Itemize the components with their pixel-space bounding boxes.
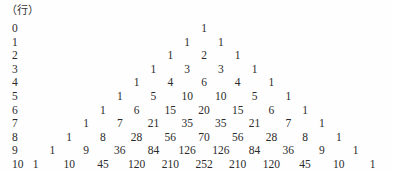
triangle-cell: 1 [33, 158, 39, 170]
triangle-cell: 15 [165, 104, 177, 118]
triangle-cell: 4 [235, 76, 241, 90]
triangle-cell: 2 [201, 49, 207, 63]
triangle-row: 2121 [0, 49, 393, 63]
triangle-cell: 28 [131, 131, 143, 145]
triangle-cell: 10 [63, 158, 75, 170]
triangle-cell: 6 [134, 104, 140, 118]
triangle-cell: 120 [128, 158, 145, 170]
triangle-cell: 1 [100, 104, 106, 118]
triangle-cell: 1 [201, 22, 207, 36]
triangle-row: 515101051 [0, 90, 393, 104]
triangle-cell: 3 [218, 63, 224, 77]
triangle-cell: 36 [114, 144, 126, 158]
triangle-row: 31331 [0, 63, 393, 77]
triangle-cell: 1 [167, 49, 173, 63]
triangle-cell: 3 [184, 63, 190, 77]
triangle-cell: 35 [215, 117, 227, 131]
triangle-cell: 9 [83, 144, 89, 158]
pascals-triangle-figure: （行） 011112121313314146415151010516161520… [0, 0, 393, 170]
triangle-cell: 9 [319, 144, 325, 158]
triangle-row: 414641 [0, 76, 393, 90]
triangle-cell: 7 [117, 117, 123, 131]
triangle-row: 9193684126126843691 [0, 144, 393, 158]
triangle-cell: 4 [167, 76, 173, 90]
triangle-cell: 45 [299, 158, 311, 170]
triangle-row: 101104512021025221012045101 [0, 158, 393, 170]
triangle-cell: 84 [249, 144, 261, 158]
triangle-cell: 15 [232, 104, 244, 118]
unit-label: （行） [6, 4, 39, 18]
row-label: 8 [12, 131, 32, 145]
triangle-cell: 8 [302, 131, 308, 145]
triangle-row: 111 [0, 36, 393, 50]
triangle-cell: 1 [370, 158, 376, 170]
triangle-cell: 126 [212, 144, 229, 158]
triangle-cell: 210 [162, 158, 179, 170]
triangle-cell: 1 [49, 144, 55, 158]
triangle-cell: 5 [151, 90, 157, 104]
row-label: 5 [12, 90, 32, 104]
triangle-cell: 10 [181, 90, 193, 104]
row-label: 7 [12, 117, 32, 131]
triangle-cell: 210 [229, 158, 246, 170]
triangle-cell: 20 [198, 104, 210, 118]
row-label: 0 [12, 22, 32, 36]
triangle-cell: 5 [252, 90, 258, 104]
triangle-cell: 8 [100, 131, 106, 145]
triangle-cell: 35 [181, 117, 193, 131]
triangle-cell: 1 [66, 131, 72, 145]
row-label: 9 [12, 144, 32, 158]
triangle-cell: 1 [184, 36, 190, 50]
triangle-cell: 1 [319, 117, 325, 131]
triangle-cell: 56 [232, 131, 244, 145]
triangle-cell: 45 [97, 158, 109, 170]
row-label: 1 [12, 36, 32, 50]
triangle-cell: 120 [263, 158, 280, 170]
triangle-cell: 1 [302, 104, 308, 118]
row-label: 6 [12, 104, 32, 118]
triangle-cell: 6 [269, 104, 275, 118]
row-label: 3 [12, 63, 32, 77]
triangle-row: 818285670562881 [0, 131, 393, 145]
triangle-cell: 1 [83, 117, 89, 131]
triangle-cell: 56 [165, 131, 177, 145]
triangle-cell: 1 [285, 90, 291, 104]
triangle-cell: 84 [148, 144, 160, 158]
row-label: 4 [12, 76, 32, 90]
triangle-cell: 21 [148, 117, 160, 131]
triangle-cell: 6 [201, 76, 207, 90]
row-label: 10 [12, 158, 32, 170]
triangle-cell: 70 [198, 131, 210, 145]
triangle-row: 01 [0, 22, 393, 36]
triangle-cell: 1 [134, 76, 140, 90]
triangle-cell: 1 [218, 36, 224, 50]
triangle-cell: 28 [266, 131, 278, 145]
triangle-cell: 10 [215, 90, 227, 104]
triangle-cell: 1 [252, 63, 258, 77]
triangle-cell: 21 [249, 117, 261, 131]
triangle-row: 61615201561 [0, 104, 393, 118]
triangle-cell: 1 [336, 131, 342, 145]
triangle-cell: 1 [353, 144, 359, 158]
triangle-cell: 1 [269, 76, 275, 90]
triangle-cell: 10 [333, 158, 345, 170]
triangle-cell: 126 [179, 144, 196, 158]
triangle-cell: 252 [195, 158, 212, 170]
triangle-cell: 1 [235, 49, 241, 63]
triangle-cell: 1 [117, 90, 123, 104]
triangle-cell: 1 [151, 63, 157, 77]
triangle-cell: 7 [285, 117, 291, 131]
triangle-cell: 36 [283, 144, 295, 158]
triangle-row: 7172135352171 [0, 117, 393, 131]
row-label: 2 [12, 49, 32, 63]
